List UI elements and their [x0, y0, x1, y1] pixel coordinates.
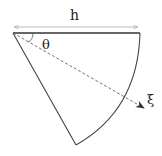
direction-line: [13, 33, 144, 108]
arc-edge: [76, 33, 140, 145]
angle-label: θ: [42, 37, 50, 52]
angle-arc: [28, 33, 33, 42]
direction-label: ξ: [147, 92, 154, 107]
sector-diagram: h θ ξ: [0, 0, 162, 156]
width-label: h: [70, 7, 79, 23]
